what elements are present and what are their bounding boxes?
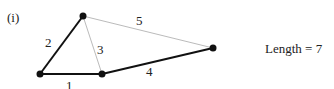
edge-weight-label: 1 [66, 79, 73, 89]
edge-weight-label: 3 [97, 43, 104, 56]
edge-weight-label: 5 [136, 14, 143, 27]
node-D [210, 45, 217, 52]
total-length-label: Length = 7 [265, 42, 322, 55]
node-B [80, 13, 87, 20]
node-A [37, 71, 44, 78]
edge-C-D [102, 48, 213, 74]
edge-weight-label: 2 [45, 36, 52, 49]
edge-weight-label: 4 [146, 65, 153, 78]
node-C [99, 71, 106, 78]
figure-label: (i) [7, 11, 19, 24]
